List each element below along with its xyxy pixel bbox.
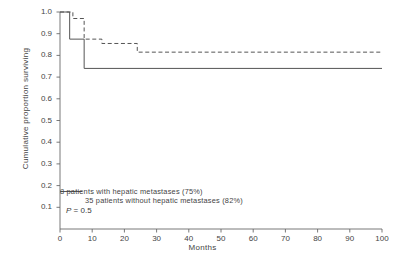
x-tick-label: 70 xyxy=(273,234,297,243)
p-value-annotation: P = 0.5 xyxy=(66,206,92,215)
x-tick-label: 20 xyxy=(112,234,136,243)
x-tick-label: 30 xyxy=(145,234,169,243)
y-tick-label: 1.0 xyxy=(26,7,52,16)
y-tick-label: 0.2 xyxy=(26,181,52,190)
x-tick-label: 100 xyxy=(370,234,394,243)
series-line-with-hepatic-metastases xyxy=(60,12,382,68)
x-tick-label: 60 xyxy=(241,234,265,243)
y-tick-label: 0.8 xyxy=(26,50,52,59)
x-tick-label: 90 xyxy=(338,234,362,243)
x-axis-ticks xyxy=(60,229,382,233)
x-tick-label: 40 xyxy=(177,234,201,243)
y-tick-label: 0.9 xyxy=(26,29,52,38)
y-tick-label: 0.3 xyxy=(26,159,52,168)
x-tick-label: 50 xyxy=(209,234,233,243)
x-tick-label: 0 xyxy=(48,234,72,243)
y-tick-label: 0.7 xyxy=(26,72,52,81)
y-tick-label: 0.4 xyxy=(26,137,52,146)
y-tick-label: 0.5 xyxy=(26,116,52,125)
plot-area xyxy=(0,0,405,265)
series-layer xyxy=(60,12,382,68)
y-tick-label: 0.6 xyxy=(26,94,52,103)
survival-chart: Cumulative proportion surviving Months 0… xyxy=(0,0,405,265)
y-axis-ticks xyxy=(57,12,61,207)
x-tick-label: 10 xyxy=(80,234,104,243)
legend-item-without-metastases: 35 patients without hepatic metastases (… xyxy=(85,196,243,206)
x-tick-label: 80 xyxy=(306,234,330,243)
y-tick-label: 0.1 xyxy=(26,202,52,211)
p-value-text: = 0.5 xyxy=(71,206,91,215)
series-line-without-hepatic-metastases xyxy=(60,12,382,52)
